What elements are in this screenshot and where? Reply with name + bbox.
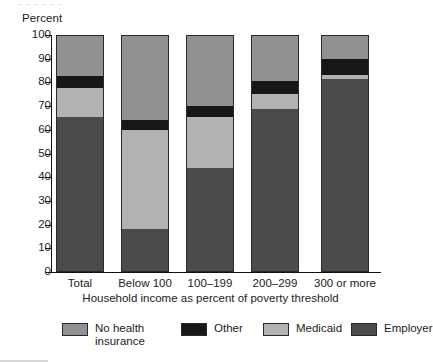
y-tick-label: 0 <box>11 265 51 277</box>
y-tick-label: 30 <box>11 194 51 206</box>
bar-segment <box>122 36 168 120</box>
y-axis-line <box>51 35 52 273</box>
bar-segment <box>57 117 103 272</box>
bar-segment <box>187 117 233 168</box>
bar-segment <box>252 94 298 109</box>
legend-item: Medicaid <box>263 322 342 336</box>
x-category-label: 300 or more <box>285 277 405 289</box>
bar-segment <box>187 168 233 272</box>
legend-item: No health insurance <box>62 322 157 347</box>
chart-legend: No health insuranceOtherMedicaidEmployer <box>62 322 412 358</box>
legend-label: Employer <box>384 322 433 335</box>
bar-segment <box>57 88 103 116</box>
bar-segment <box>57 76 103 88</box>
bar-segment <box>322 79 368 272</box>
stacked-bar <box>56 35 104 272</box>
legend-swatch <box>181 323 207 336</box>
legend-swatch <box>62 323 88 336</box>
bar-segment <box>122 130 168 230</box>
y-tick-label: 60 <box>11 123 51 135</box>
bar-segment <box>57 36 103 76</box>
legend-swatch <box>351 323 377 336</box>
legend-label: Medicaid <box>296 322 342 335</box>
bar-segment <box>252 109 298 272</box>
bar-segment <box>252 81 298 94</box>
bar-segment <box>187 36 233 106</box>
bar-segment <box>252 36 298 81</box>
legend-label: Other <box>214 322 243 335</box>
bar-segment <box>122 229 168 272</box>
stacked-bar <box>186 35 234 272</box>
y-tick-label: 40 <box>11 170 51 182</box>
bar-segment <box>122 120 168 129</box>
stacked-bar <box>321 35 369 272</box>
y-tick-label: 100 <box>11 28 51 40</box>
y-tick-label: 20 <box>11 218 51 230</box>
y-tick-label: 80 <box>11 75 51 87</box>
stacked-bar <box>121 35 169 272</box>
bar-segment <box>187 106 233 117</box>
legend-label: No health insurance <box>95 322 157 347</box>
legend-swatch <box>263 323 289 336</box>
y-tick-label: 90 <box>11 52 51 64</box>
legend-item: Other <box>181 322 243 336</box>
y-tick-label: 70 <box>11 99 51 111</box>
y-tick-label: 10 <box>11 241 51 253</box>
x-axis-line <box>51 272 381 273</box>
legend-item: Employer <box>351 322 433 336</box>
y-tick-label: 50 <box>11 147 51 159</box>
bar-segment <box>322 59 368 76</box>
bar-segment <box>322 36 368 59</box>
x-axis-title: Household income as percent of poverty t… <box>0 292 421 304</box>
stacked-bar <box>251 35 299 272</box>
